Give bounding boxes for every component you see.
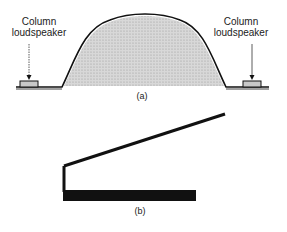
stage-floor-block bbox=[63, 190, 196, 201]
left-loudspeaker bbox=[20, 81, 38, 87]
raked-seating-line bbox=[64, 114, 225, 166]
label-line: loudspeaker bbox=[212, 27, 270, 38]
right-loudspeaker bbox=[243, 81, 261, 87]
label-line: Column bbox=[10, 16, 68, 27]
label-line: loudspeaker bbox=[10, 27, 68, 38]
audience-mound bbox=[64, 16, 224, 86]
caption-a: (a) bbox=[130, 91, 154, 102]
caption-b: (b) bbox=[128, 206, 152, 217]
left-loudspeaker-label: Column loudspeaker bbox=[10, 16, 68, 38]
label-line: Column bbox=[212, 16, 270, 27]
right-loudspeaker-label: Column loudspeaker bbox=[212, 16, 270, 38]
